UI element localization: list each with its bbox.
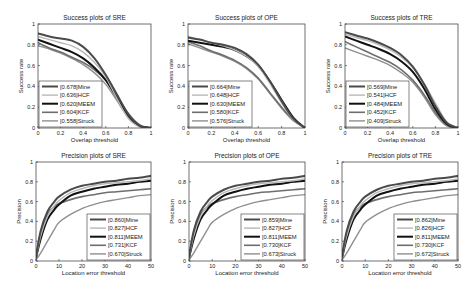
x-tick-label: 0.6 — [409, 130, 417, 136]
y-tick-label: 0 — [30, 258, 33, 264]
chart-title: Precision plots of TRE — [368, 152, 433, 160]
legend: [0.678]Mine[0.636]HCF[0.620]MEEM[0.604]K… — [39, 81, 102, 127]
x-axis-label: Location error threshold — [62, 270, 125, 276]
y-tick-label: 0.2 — [177, 104, 185, 110]
y-axis-label: Success rate — [325, 58, 331, 93]
y-tick-label: 0.8 — [25, 179, 33, 185]
y-tick-label: 0 — [183, 258, 186, 264]
x-tick-label: 1 — [149, 130, 152, 136]
legend-entry-hcf: [0.827]HCF — [108, 225, 138, 231]
x-tick-label: 1 — [303, 130, 306, 136]
x-tick-label: 0.4 — [231, 130, 239, 136]
legend-entry-struck: [0.670]Struck — [108, 251, 142, 257]
x-tick-label: 0.2 — [208, 130, 216, 136]
y-tick-label: 1 — [30, 159, 33, 165]
y-tick-label: 0.4 — [178, 218, 186, 224]
legend-entry-hcf: [0.648]HCF — [210, 92, 240, 98]
x-tick-label: 0.8 — [125, 130, 133, 136]
legend-entry-mine: [0.860]Mine — [108, 217, 138, 223]
y-tick-label: 0.2 — [331, 238, 339, 244]
legend-entry-struck: [0.409]Struck — [367, 118, 401, 124]
legend-entry-hcf: [0.636]HCF — [60, 92, 90, 98]
legend-entry-mine: [0.678]Mine — [60, 84, 90, 90]
y-tick-label: 0 — [336, 258, 339, 264]
x-axis-label: Overlap threshold — [223, 137, 270, 143]
y-axis-label: Precision — [169, 199, 175, 224]
chart-title: Success plots of OPE — [215, 14, 279, 22]
y-axis-label: Success rate — [168, 58, 174, 93]
chart-title: Precision plots of SRE — [61, 152, 126, 160]
precision-sre-chart: Precision plots of SRE0102030405000.20.4… — [16, 152, 154, 276]
legend: [0.862]Mine[0.826]HCF[0.811]MEEM[0.730]K… — [394, 214, 457, 260]
x-tick-label: 10 — [209, 263, 215, 269]
legend-entry-meem: [0.484]MEEM — [367, 101, 402, 107]
success-sre-chart: Success plots of SRE00.20.40.60.8100.20.… — [18, 14, 153, 143]
y-tick-label: 0.6 — [334, 63, 342, 69]
y-tick-label: 0.8 — [178, 179, 186, 185]
y-tick-label: 0.8 — [27, 42, 35, 48]
x-tick-label: 30 — [102, 263, 108, 269]
success-tre-chart: Success plots of TRE00.20.40.60.8100.20.… — [325, 14, 460, 143]
y-tick-label: 0.2 — [178, 238, 186, 244]
legend-entry-struck: [0.558]Struck — [60, 118, 94, 124]
legend: [0.664]Mine[0.648]HCF[0.630]MEEM[0.580]K… — [189, 81, 252, 127]
figure-grid: Success plots of SRE00.20.40.60.8100.20.… — [0, 0, 470, 294]
x-tick-label: 0.2 — [57, 130, 65, 136]
y-tick-label: 0.4 — [25, 218, 33, 224]
legend-entry-meem: [0.811]MEEM — [108, 234, 143, 240]
x-tick-label: 0 — [343, 130, 346, 136]
legend-entry-mine: [0.862]Mine — [415, 217, 445, 223]
y-tick-label: 1 — [32, 21, 35, 27]
x-axis-label: Overlap threshold — [378, 137, 425, 143]
chart-title: Success plots of SRE — [63, 14, 126, 22]
y-tick-label: 0.6 — [178, 199, 186, 205]
legend-entry-struck: [0.673]Struck — [262, 251, 296, 257]
y-tick-label: 0.6 — [177, 63, 185, 69]
x-tick-label: 0.4 — [79, 130, 87, 136]
y-tick-label: 1 — [339, 21, 342, 27]
x-tick-label: 0 — [186, 130, 189, 136]
y-tick-label: 0 — [339, 125, 342, 131]
legend-entry-meem: [0.811]MEEM — [415, 234, 450, 240]
legend-entry-meem: [0.620]MEEM — [60, 101, 95, 107]
x-tick-label: 0 — [34, 263, 37, 269]
legend: [0.569]Mine[0.541]HCF[0.484]MEEM[0.452]K… — [346, 81, 409, 127]
legend: [0.860]Mine[0.827]HCF[0.811]MEEM[0.731]K… — [87, 214, 150, 260]
y-tick-label: 0.6 — [27, 63, 35, 69]
x-tick-label: 50 — [302, 263, 308, 269]
precision-ope-chart: Precision plots of OPE0102030405000.20.4… — [169, 152, 308, 276]
y-tick-label: 0.6 — [25, 199, 33, 205]
legend-entry-kcf: [0.731]KCF — [108, 242, 138, 248]
x-tick-label: 50 — [455, 263, 461, 269]
x-tick-label: 0.6 — [254, 130, 262, 136]
y-tick-label: 1 — [336, 159, 339, 165]
legend-entry-kcf: [0.452]KCF — [367, 109, 397, 115]
legend-entry-mine: [0.664]Mine — [210, 84, 240, 90]
x-tick-label: 10 — [362, 263, 368, 269]
y-tick-label: 0.2 — [27, 104, 35, 110]
y-tick-label: 0.8 — [331, 179, 339, 185]
y-tick-label: 0.4 — [334, 83, 342, 89]
x-tick-label: 0.8 — [278, 130, 286, 136]
x-tick-label: 0 — [36, 130, 39, 136]
x-tick-label: 1 — [456, 130, 459, 136]
legend-entry-hcf: [0.827]HCF — [262, 225, 292, 231]
success-ope-chart: Success plots of OPE00.20.40.60.8100.20.… — [168, 14, 307, 143]
legend-entry-meem: [0.630]MEEM — [210, 101, 245, 107]
y-axis-label: Precision — [322, 199, 328, 224]
x-tick-label: 0.8 — [432, 130, 440, 136]
legend-entry-meem: [0.811]MEEM — [262, 234, 297, 240]
y-tick-label: 1 — [182, 21, 185, 27]
legend: [0.859]Mine[0.827]HCF[0.811]MEEM[0.730]K… — [241, 214, 304, 260]
x-tick-label: 0.4 — [386, 130, 394, 136]
y-tick-label: 0.4 — [27, 83, 35, 89]
precision-tre-chart: Precision plots of TRE0102030405000.20.4… — [322, 152, 461, 276]
x-tick-label: 20 — [79, 263, 85, 269]
y-tick-label: 0 — [32, 125, 35, 131]
y-tick-label: 0.4 — [331, 218, 339, 224]
x-axis-label: Location error threshold — [368, 270, 431, 276]
y-tick-label: 0.8 — [334, 42, 342, 48]
y-axis-label: Success rate — [18, 58, 24, 93]
x-tick-label: 30 — [256, 263, 262, 269]
x-axis-label: Overlap threshold — [71, 137, 118, 143]
